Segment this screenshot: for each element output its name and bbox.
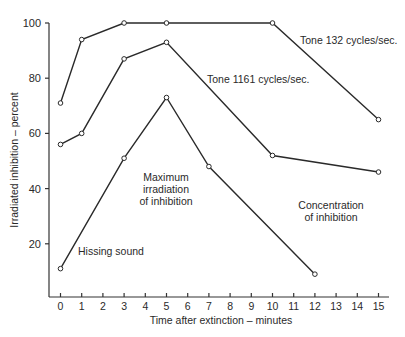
x-tick-label: 14 <box>351 300 363 312</box>
x-tick-label: 11 <box>288 300 299 312</box>
data-point <box>313 272 318 277</box>
data-point <box>58 266 63 271</box>
data-point <box>376 170 381 175</box>
x-tick-label: 1 <box>79 300 85 312</box>
data-point <box>164 21 169 26</box>
x-tick-label: 8 <box>227 300 233 312</box>
data-point <box>58 101 63 106</box>
series-layer <box>58 21 381 277</box>
x-tick-label: 9 <box>248 300 254 312</box>
annotation-concentration-2: of inhibition <box>304 211 357 223</box>
data-point <box>270 153 275 158</box>
x-axis-label: Time after extinction – minutes <box>150 314 293 326</box>
x-tick-label: 12 <box>309 300 321 312</box>
x-tick-label: 2 <box>100 300 106 312</box>
series-tone-1161 <box>58 40 381 174</box>
y-tick-label: 60 <box>29 127 41 139</box>
annotation-max-irradiation-2: irradiation <box>143 183 189 195</box>
series-label-hissing: Hissing sound <box>78 245 144 257</box>
annotation-max-irradiation-1: Maximum <box>143 171 189 183</box>
data-point <box>207 164 212 169</box>
y-tick-label: 100 <box>23 17 41 29</box>
data-point <box>79 37 84 42</box>
data-point <box>270 21 275 26</box>
y-tick-label: 40 <box>29 183 41 195</box>
data-point <box>79 131 84 136</box>
annotation-concentration-1: Concentration <box>298 199 364 211</box>
series-label-tone-1161: Tone 1161 cycles/sec. <box>207 73 310 85</box>
x-tick-label: 0 <box>58 300 64 312</box>
data-point <box>58 142 63 147</box>
y-axis-label: Irradiated inhibition – percent <box>8 92 20 228</box>
x-tick-label: 10 <box>267 300 279 312</box>
data-point <box>376 117 381 122</box>
x-tick-label: 3 <box>121 300 127 312</box>
data-point <box>122 156 127 161</box>
y-tick-label: 20 <box>29 238 41 250</box>
x-tick-label: 5 <box>164 300 170 312</box>
x-tick-label: 15 <box>373 300 385 312</box>
line-chart: 204060801000123456789101112131415 Tone 1… <box>0 0 405 337</box>
data-point <box>164 40 169 45</box>
x-tick-label: 6 <box>185 300 191 312</box>
x-tick-label: 7 <box>206 300 212 312</box>
x-tick-label: 4 <box>142 300 148 312</box>
series-line <box>61 42 379 172</box>
series-label-tone-132: Tone 132 cycles/sec. <box>300 34 397 46</box>
y-tick-label: 80 <box>29 72 41 84</box>
data-point <box>122 57 127 62</box>
data-point <box>122 21 127 26</box>
x-tick-label: 13 <box>330 300 342 312</box>
data-point <box>164 95 169 100</box>
annotation-max-irradiation-3: of inhibition <box>139 195 192 207</box>
